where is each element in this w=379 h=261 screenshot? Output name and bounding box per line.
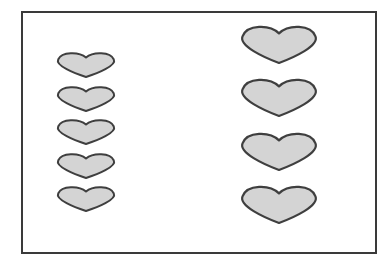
- heart-icon-left-3: [58, 120, 114, 144]
- heart-icon-right-1: [242, 27, 316, 63]
- heart-icon-left-2: [58, 87, 114, 111]
- heart-icon-right-3: [242, 134, 316, 170]
- hearts-canvas: [0, 0, 379, 261]
- heart-icon-left-4: [58, 154, 114, 178]
- heart-icon-left-5: [58, 187, 114, 211]
- heart-icon-right-2: [242, 80, 316, 116]
- heart-icon-left-1: [58, 53, 114, 77]
- heart-icon-right-4: [242, 187, 316, 223]
